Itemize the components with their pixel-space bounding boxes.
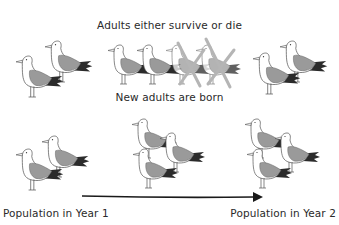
label-population-year-1: Population in Year 1 <box>3 207 109 219</box>
gull-icon <box>160 133 205 172</box>
gull-icon <box>275 133 320 172</box>
label-population-year-2: Population in Year 2 <box>230 207 336 219</box>
gull-group-survive-or-die <box>108 39 241 87</box>
caption-new-adults: New adults are born <box>0 91 339 103</box>
time-arrow-icon <box>82 192 263 202</box>
gull-group-new-adults <box>132 119 205 188</box>
gull-group-year2 <box>245 119 320 188</box>
gull-group-year1-top <box>16 41 92 97</box>
gull-icon <box>45 41 92 82</box>
diagram-canvas <box>0 0 339 225</box>
gull-group-survivors-right <box>253 41 327 94</box>
caption-survive-or-die: Adults either survive or die <box>0 19 339 31</box>
gull-group-year1-bottom <box>16 136 89 190</box>
